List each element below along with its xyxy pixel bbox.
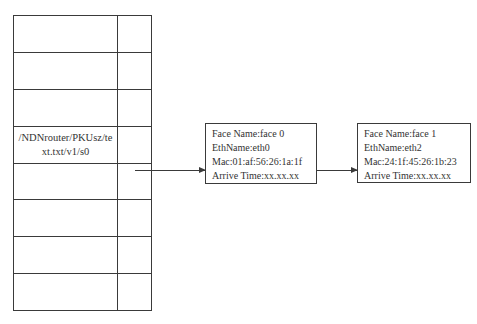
table-cell-name: /NDNrouter/PKUsz/text.txt/v1/s0 [14,127,118,163]
table-cell-name [14,164,118,200]
eth-name: EthName:eth2 [364,141,470,155]
table-cell-pointer [118,164,151,200]
table-cell-pointer [118,90,151,126]
face-name: Face Name:face 0 [212,127,316,141]
table-row [14,274,151,310]
arrow-icon [317,170,357,171]
table-cell-name [14,16,118,52]
table-cell-name [14,200,118,236]
table-cell-pointer [118,237,151,273]
table-row-highlighted: /NDNrouter/PKUsz/text.txt/v1/s0 [14,127,151,164]
face-name: Face Name:face 1 [364,127,470,141]
mac-address: Mac:01:af:56:26:1a:1f [212,155,316,169]
table-row [14,200,151,237]
arrow-icon [135,170,205,171]
face-box-0: Face Name:face 0 EthName:eth0 Mac:01:af:… [205,123,317,184]
table-cell-name [14,90,118,126]
table-row [14,90,151,127]
table-cell-pointer [118,53,151,89]
table-cell-pointer [118,16,151,52]
table-cell-pointer [118,127,151,163]
face-box-1: Face Name:face 1 EthName:eth2 Mac:24:1f:… [357,123,471,183]
table-row [14,16,151,53]
table-cell-name [14,53,118,89]
table-row [14,237,151,274]
arrive-time: Arrive Time:xx.xx.xx [212,169,316,183]
table-row [14,53,151,90]
table-cell-name [14,274,118,310]
eth-name: EthName:eth0 [212,141,316,155]
table-row [14,164,151,201]
table-cell-pointer [118,274,151,310]
table-cell-pointer [118,200,151,236]
mac-address: Mac:24:1f:45:26:1b:23 [364,155,470,169]
table-cell-name [14,237,118,273]
name-table: /NDNrouter/PKUsz/text.txt/v1/s0 [13,15,152,311]
arrive-time: Arrive Time:xx.xx.xx [364,169,470,183]
